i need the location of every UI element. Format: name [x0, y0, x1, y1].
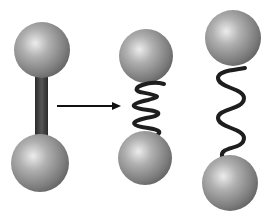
compressed-spring [134, 83, 164, 136]
stretched-spring [218, 68, 245, 162]
stretched-spring-assembly [202, 10, 261, 211]
arrow-head-icon [112, 102, 121, 110]
sphere-top [14, 22, 70, 78]
arrow [57, 102, 121, 110]
compressed-spring-assembly [118, 29, 173, 185]
sphere-bottom [202, 155, 258, 211]
sphere-bottom [11, 134, 69, 192]
diagram-canvas [0, 0, 276, 216]
sphere-top [119, 29, 173, 83]
rigid-rod [35, 76, 48, 140]
sphere-bottom [118, 131, 172, 185]
sphere-top [205, 10, 261, 66]
